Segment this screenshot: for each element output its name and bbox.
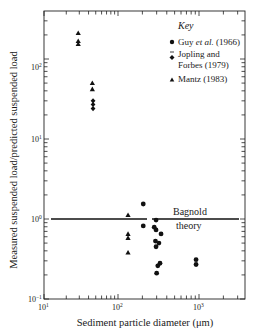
diamond-marker xyxy=(91,106,96,111)
legend-jopling-2: Forbes (1979) xyxy=(178,60,229,70)
svg-text:102: 102 xyxy=(31,62,42,72)
svg-text:100: 100 xyxy=(31,214,42,224)
triangle-marker xyxy=(125,231,130,236)
legend-jopling-1: Jopling and xyxy=(178,49,220,59)
svg-text:103: 103 xyxy=(193,302,204,312)
triangle-marker xyxy=(125,250,130,255)
triangle-marker xyxy=(125,212,130,217)
circle-marker xyxy=(154,228,159,233)
triangle-marker xyxy=(76,30,81,35)
triangle-marker xyxy=(125,235,130,240)
circle-marker xyxy=(154,218,159,223)
svg-text:101: 101 xyxy=(31,134,42,144)
circle-marker xyxy=(159,232,164,237)
y-axis-title: Measured suspended load/predicted suspen… xyxy=(8,50,19,268)
circle-marker xyxy=(154,271,159,276)
legend-mantz: Mantz (1983) xyxy=(178,74,227,84)
triangle-marker xyxy=(90,80,95,85)
circle-marker xyxy=(141,223,146,228)
circle-marker xyxy=(194,262,199,267)
svg-text:101: 101 xyxy=(38,302,49,312)
legend-diamond-icon xyxy=(170,55,175,60)
x-tick-labels: 101 102 103 xyxy=(38,302,204,312)
circle-marker xyxy=(194,257,199,262)
scatter-chart: 101 102 103 10−1 100 101 102 Sediment pa… xyxy=(0,0,253,334)
legend-circle-icon xyxy=(170,40,174,44)
theory-label: theory xyxy=(176,220,202,231)
legend-guy: Guy et al. (1966) xyxy=(178,37,240,47)
x-axis-title: Sediment particle diameter (μm) xyxy=(77,317,214,329)
legend: Key Guy et al. (1966) Jopling and Forbes… xyxy=(170,20,241,84)
circle-marker xyxy=(141,202,146,207)
triangle-marker xyxy=(90,87,95,92)
legend-title: Key xyxy=(177,20,194,31)
circle-marker xyxy=(154,244,159,249)
bagnold-label: Bagnold xyxy=(173,206,207,217)
circle-marker xyxy=(155,263,160,268)
legend-triangle-icon xyxy=(170,78,175,82)
y-tick-labels: 10−1 100 101 102 xyxy=(28,62,42,304)
svg-text:102: 102 xyxy=(112,302,123,312)
